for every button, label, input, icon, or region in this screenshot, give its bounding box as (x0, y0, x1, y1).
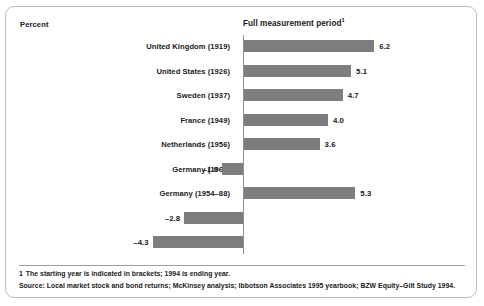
bar (184, 212, 243, 224)
chart-title-footnote-marker: 1 (342, 17, 345, 23)
bar (244, 89, 343, 101)
bar (222, 163, 243, 175)
category-label: United Kingdom (1919) (146, 42, 230, 51)
bar (244, 138, 320, 150)
bar (244, 65, 351, 77)
bar (244, 114, 328, 126)
bar (244, 187, 355, 199)
bar-row: United Kingdom (1919)6.2 (6, 34, 476, 58)
bar (153, 236, 243, 248)
bar-value-label: 5.1 (356, 66, 367, 75)
bar-value-label: 5.3 (360, 189, 371, 198)
category-label: Germany (1954–88) (159, 189, 230, 198)
footnote-divider (19, 265, 465, 266)
footnote-marker: 1 (19, 270, 23, 277)
bar-row: France (1949)4.0 (6, 108, 476, 132)
bar-row: Germany (1967)–1.0 (6, 157, 476, 181)
bar-row: Netherlands (1956)3.6 (6, 132, 476, 156)
bar-value-label: 3.6 (325, 140, 336, 149)
bar-row: Germany (1954–88)5.3 (6, 181, 476, 205)
category-label: Netherlands (1956) (161, 140, 230, 149)
bar-row: Sweden (1937)4.7 (6, 83, 476, 107)
chart-title: Full measurement period1 (243, 19, 345, 28)
category-label: France (1949) (180, 115, 230, 124)
bar-value-label: –4.3 (133, 238, 148, 247)
unit-label: Percent (20, 20, 49, 29)
chart-title-text: Full measurement period (243, 19, 342, 28)
source-line: Source: Local market stock and bond retu… (19, 282, 455, 289)
footnote-text: The starting year is indicated in bracke… (26, 270, 230, 277)
bar-row: United States (1926)5.1 (6, 59, 476, 83)
bar-chart-plot: United Kingdom (1919)6.2United States (1… (6, 31, 476, 259)
category-label: United States (1926) (156, 66, 230, 75)
bar-value-label: 4.0 (333, 115, 344, 124)
bar (244, 40, 374, 52)
bar-value-label: 4.7 (348, 91, 359, 100)
category-label: Sweden (1937) (177, 91, 230, 100)
footnote: 1The starting year is indicated in brack… (19, 270, 230, 277)
bar-value-label: –2.8 (165, 213, 180, 222)
exhibit-frame: Percent Full measurement period1 United … (5, 6, 477, 298)
bar-value-label: 6.2 (379, 42, 390, 51)
bar-value-label: –1.0 (203, 164, 218, 173)
bar-row: Belgium (1949)–4.3 (6, 230, 476, 254)
bar-row: Italy (1960)–2.8 (6, 206, 476, 230)
